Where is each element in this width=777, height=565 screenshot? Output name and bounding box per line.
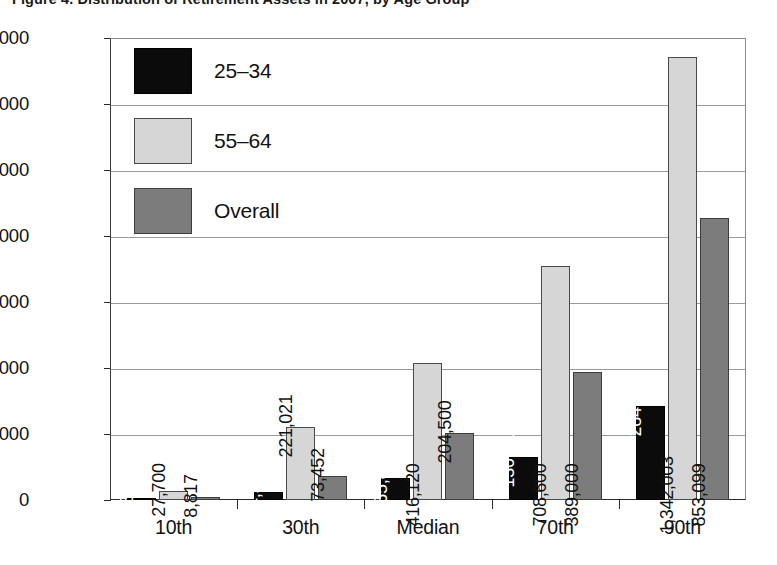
- x-axis-category-label: 30th: [231, 516, 371, 539]
- bar-value-label: 73,452: [304, 448, 333, 501]
- bar-value-label: 65,886: [367, 451, 396, 504]
- bar-value-label: 130,213: [494, 425, 523, 488]
- bar-value-label: 27,700: [145, 463, 174, 516]
- x-axis-tick: [492, 500, 493, 509]
- chart-figure: Figure 4. Distribution of Retirement Ass…: [0, 0, 777, 565]
- x-axis-category-label: 10th: [104, 516, 244, 539]
- x-axis-category-label: 90th: [612, 516, 752, 539]
- bar-value-label: 389,000: [558, 464, 587, 527]
- y-axis-tick: [104, 500, 111, 501]
- bar-value-label: 3,570: [113, 475, 142, 519]
- y-axis-tick-label: 0: [0, 489, 29, 511]
- bar-value-label: 708,600: [526, 464, 555, 527]
- bar[interactable]: 73,452: [318, 476, 347, 500]
- y-axis-tick-label: 800,000: [0, 225, 29, 247]
- bar-group: 284,5071,342,003853,099: [619, 38, 746, 500]
- x-axis-category-label: Median: [358, 516, 498, 539]
- bar[interactable]: 1,342,003: [668, 57, 697, 500]
- bar-value-label: 204,500: [431, 400, 460, 463]
- bar[interactable]: 853,099: [700, 218, 729, 500]
- y-axis-tick-label: 400,000: [0, 357, 29, 379]
- x-axis-tick: [237, 500, 238, 509]
- bar-value-label: 1,342,003: [653, 456, 682, 533]
- bar-group: 3,57027,7008,817: [110, 38, 237, 500]
- bar-group: 65,886416,120204,500: [364, 38, 491, 500]
- y-axis-tick-label: 1,400,000: [0, 27, 29, 49]
- x-axis-tick: [619, 500, 620, 509]
- bar-value-label: 853,099: [685, 464, 714, 527]
- y-axis-tick-label: 600,000: [0, 291, 29, 313]
- bar-group: 130,213708,600389,000: [492, 38, 619, 500]
- bar[interactable]: 8,817: [191, 497, 220, 500]
- bar[interactable]: 204,500: [445, 433, 474, 500]
- bar-value-label: 221,021: [272, 395, 301, 458]
- y-axis-tick-label: 1,000,000: [0, 159, 29, 181]
- bar-value-label: 24,510: [240, 464, 269, 517]
- bar[interactable]: 24,510: [254, 492, 283, 500]
- bar-value-label: 416,120: [399, 464, 428, 527]
- x-axis-category-label: 70th: [485, 516, 625, 539]
- bar-value-label: 284,507: [621, 374, 650, 437]
- bar[interactable]: 389,000: [573, 372, 602, 500]
- bar-group: 24,510221,02173,452: [237, 38, 364, 500]
- x-axis-tick: [364, 500, 365, 509]
- bar-value-label: 8,817: [177, 474, 206, 518]
- y-axis-tick-label: 200,000: [0, 423, 29, 445]
- y-axis-tick-label: 1,200,000: [0, 93, 29, 115]
